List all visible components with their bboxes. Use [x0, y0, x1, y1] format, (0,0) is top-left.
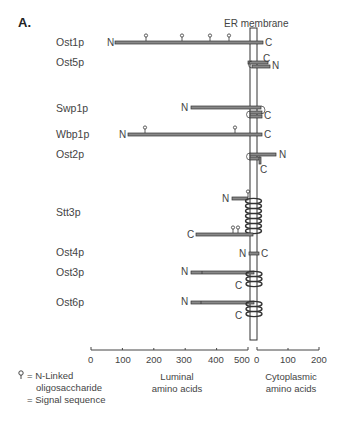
n-terminus-ost5p: N — [272, 60, 279, 71]
x-axis — [91, 347, 319, 350]
c-terminus-ost3p: C — [235, 280, 242, 291]
legend-glycan-line1: = N-Linked — [27, 370, 105, 382]
n-terminus-swp1p: N — [181, 102, 188, 113]
n-terminus-ost3p: N — [181, 266, 188, 277]
legend-glycan-icon — [19, 371, 23, 379]
c-terminus-ost6p: C — [235, 310, 242, 321]
c-terminus-ost2p: C — [260, 164, 267, 175]
cytoplasmic-title-line1: Cytoplasmic — [256, 371, 326, 383]
protein-label-ost3p: Ost3p — [56, 266, 84, 278]
legend-glycan-line2: oligosaccharide — [27, 382, 105, 394]
tick-luminal-300: 300 — [176, 354, 192, 365]
glycan-icon — [231, 226, 239, 233]
glycan-icon — [144, 34, 230, 41]
tick-cyto-200: 200 — [311, 354, 327, 365]
tick-luminal-500: 500 — [234, 354, 250, 365]
c-terminus-ost4p: C — [261, 248, 268, 259]
tick-cyto-0: 0 — [254, 354, 259, 365]
cytoplasmic-title-line2: amino acids — [256, 383, 326, 395]
c-terminus-ost5p: C — [263, 53, 270, 64]
c-terminus-ost1p: C — [265, 37, 272, 48]
cytoplasmic-axis-title: Cytoplasmic amino acids — [256, 371, 326, 395]
luminal-title-line2: amino acids — [142, 383, 212, 395]
wbp1p-topology — [128, 126, 262, 136]
n-terminus-stt3p: N — [222, 193, 229, 204]
er-membrane — [250, 28, 257, 340]
protein-label-ost4p: Ost4p — [56, 246, 84, 258]
protein-label-ost5p: Ost5p — [56, 56, 84, 68]
swp1p-topology — [191, 106, 265, 118]
n-terminus-wbp1p: N — [119, 129, 126, 140]
tick-cyto-100: 100 — [280, 354, 296, 365]
c-terminus-wbp1p: C — [264, 129, 271, 140]
ost1p-topology — [115, 34, 263, 44]
luminal-title-line1: Luminal — [142, 371, 212, 383]
protein-label-ost6p: Ost6p — [56, 296, 84, 308]
n-terminus-ost6p: N — [181, 296, 188, 307]
glycan-icon — [143, 126, 236, 133]
protein-label-swp1p: Swp1p — [56, 102, 88, 114]
legend-signal-sequence: = Signal sequence — [27, 394, 105, 406]
tick-luminal-0: 0 — [88, 354, 93, 365]
luminal-axis-title: Luminal amino acids — [142, 371, 212, 395]
protein-label-ost1p: Ost1p — [56, 36, 84, 48]
n-terminus-ost4p: N — [239, 248, 246, 259]
ost4p-topology — [249, 252, 259, 255]
tick-luminal-100: 100 — [115, 354, 131, 365]
c-terminus-swp1p: C — [264, 110, 271, 121]
tick-luminal-200: 200 — [146, 354, 162, 365]
tick-luminal-400: 400 — [208, 354, 224, 365]
n-terminus-ost2p: N — [279, 149, 286, 160]
protein-label-ost2p: Ost2p — [56, 148, 84, 160]
n-terminus-ost1p: N — [107, 37, 114, 48]
protein-label-wbp1p: Wbp1p — [56, 128, 89, 140]
legend-glycan: = N-Linked oligosaccharide = Signal sequ… — [27, 370, 105, 406]
protein-label-stt3p: Stt3p — [56, 206, 81, 218]
c-terminus-stt3p: C — [187, 229, 194, 240]
